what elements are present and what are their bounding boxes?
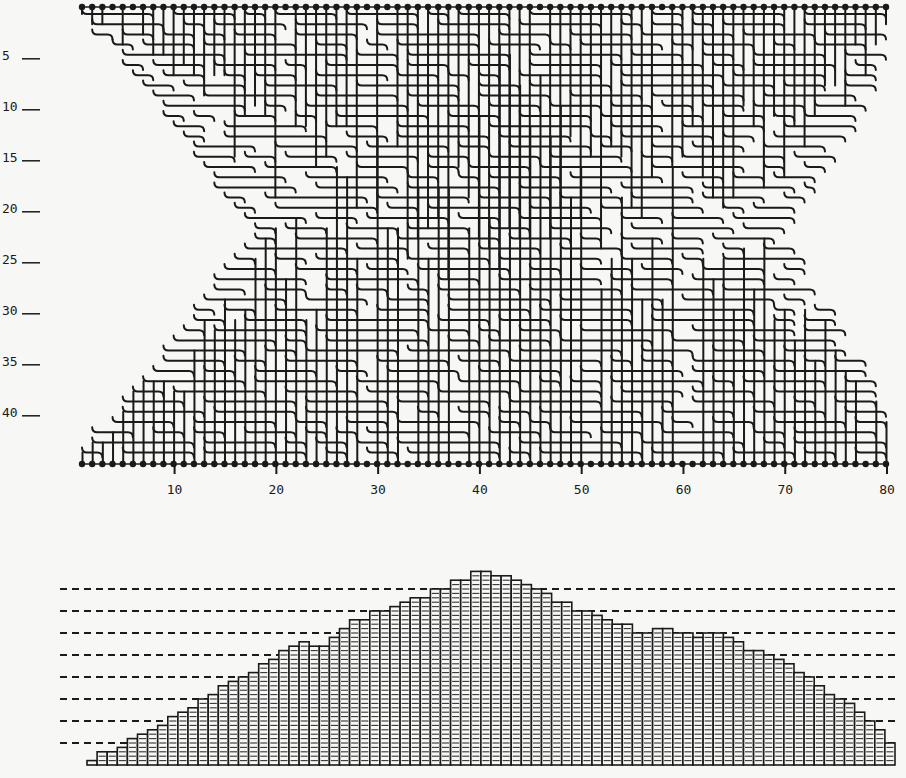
- density-bar: [622, 624, 632, 765]
- track-label: 20: [2, 201, 18, 216]
- density-bar: [501, 576, 511, 765]
- density-bar: [673, 633, 683, 765]
- density-bar: [845, 703, 855, 765]
- density-bar: [865, 721, 875, 765]
- column-label: 50: [574, 482, 590, 497]
- density-bar: [834, 699, 844, 765]
- density-bar: [754, 651, 764, 765]
- density-bar: [87, 761, 97, 765]
- column-label: 30: [370, 482, 386, 497]
- density-bar: [683, 633, 693, 765]
- density-bar: [885, 743, 895, 765]
- density-bar: [441, 589, 451, 765]
- density-bar: [410, 598, 420, 765]
- track-label: 25: [2, 252, 18, 267]
- track-axis-labels: 510152025303540: [2, 48, 40, 420]
- track-label: 15: [2, 150, 18, 165]
- density-bar: [764, 655, 774, 765]
- density-bar: [491, 576, 501, 765]
- density-bar: [461, 580, 471, 765]
- density-bar: [299, 642, 309, 765]
- density-bar: [602, 620, 612, 765]
- density-bar: [653, 629, 663, 765]
- density-bar: [138, 734, 148, 765]
- column-label: 10: [167, 482, 183, 497]
- density-bar: [542, 593, 552, 765]
- column-label: 60: [676, 482, 692, 497]
- density-bar: [370, 611, 380, 765]
- density-bar: [643, 633, 653, 765]
- density-bar: [733, 642, 743, 765]
- track-label: 10: [2, 99, 18, 114]
- density-bar: [804, 677, 814, 765]
- density-bar: [107, 752, 117, 765]
- column-label: 70: [777, 482, 793, 497]
- density-bar: [360, 620, 370, 765]
- density-bar: [794, 673, 804, 765]
- density-bar: [744, 651, 754, 765]
- density-bar: [723, 637, 733, 765]
- track-label: 5: [2, 48, 10, 63]
- density-bar: [340, 629, 350, 765]
- density-bar: [471, 571, 481, 765]
- density-bar: [117, 747, 127, 765]
- density-bar: [329, 637, 339, 765]
- density-bar: [390, 607, 400, 765]
- track-label: 40: [2, 405, 18, 420]
- density-bar: [289, 646, 299, 765]
- density-bar: [319, 646, 329, 765]
- density-bar: [521, 585, 531, 765]
- density-bar: [632, 633, 642, 765]
- density-bar: [188, 708, 198, 765]
- density-bar: [552, 602, 562, 765]
- density-bar: [350, 620, 360, 765]
- density-bar: [127, 739, 137, 765]
- column-label: 80: [879, 482, 895, 497]
- density-bar: [784, 664, 794, 765]
- track-label: 30: [2, 303, 18, 318]
- density-bar: [511, 580, 521, 765]
- density-bar: [97, 752, 107, 765]
- density-bar: [380, 611, 390, 765]
- density-bar: [612, 624, 622, 765]
- density-bar: [198, 699, 208, 765]
- density-bar: [582, 611, 592, 765]
- density-bar: [228, 681, 238, 765]
- density-bar: [562, 602, 572, 765]
- density-bar: [269, 659, 279, 765]
- density-bar: [663, 629, 673, 765]
- track-label: 35: [2, 354, 18, 369]
- density-bar: [239, 677, 249, 765]
- column-axis: 1020304050607080: [167, 464, 895, 497]
- pin-rows: [79, 4, 889, 467]
- density-bar: [875, 730, 885, 765]
- density-bar: [451, 580, 461, 765]
- routing-wires: [82, 7, 887, 464]
- channel-routing-figure: 510152025303540 1020304050607080: [0, 0, 906, 778]
- density-bar: [420, 598, 430, 765]
- density-bar: [279, 651, 289, 765]
- density-bar: [824, 695, 834, 765]
- density-bar: [592, 615, 602, 765]
- density-bar: [572, 611, 582, 765]
- density-bar: [693, 637, 703, 765]
- density-bar: [481, 571, 491, 765]
- column-label: 20: [269, 482, 285, 497]
- density-bar: [814, 686, 824, 765]
- density-bar: [703, 633, 713, 765]
- density-bar: [148, 730, 158, 765]
- density-bar: [855, 712, 865, 765]
- density-bar: [218, 686, 228, 765]
- column-label: 40: [472, 482, 488, 497]
- density-bar: [430, 589, 440, 765]
- density-bar: [774, 659, 784, 765]
- density-bar: [531, 589, 541, 765]
- density-bar: [158, 725, 168, 765]
- density-histogram: [60, 571, 895, 765]
- density-bar: [168, 717, 178, 765]
- density-bar: [309, 646, 319, 765]
- density-bar: [208, 695, 218, 765]
- density-bar: [259, 664, 269, 765]
- density-bar: [713, 633, 723, 765]
- density-bar: [178, 712, 188, 765]
